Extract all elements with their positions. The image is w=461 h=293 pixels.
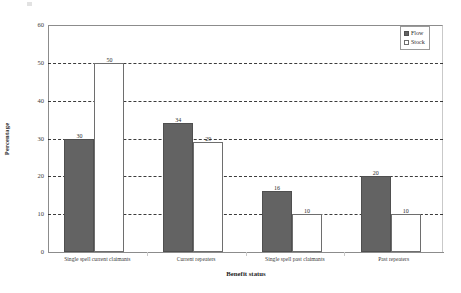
legend-item-flow: Flow [404,29,425,38]
decorative-corner-mark [27,2,32,6]
x-axis-separator [147,252,148,256]
x-tick-label: Current repeaters [177,257,216,263]
x-tick-label: Past repeaters [378,257,409,263]
bar-stock-0: 50 [94,63,124,252]
bar-value-label: 16 [274,185,280,191]
y-tick-label: 10 [38,211,45,218]
x-tick-label: Single spell past claimants [265,257,325,263]
legend-item-label: Stock [411,38,425,47]
bar-stock-3: 10 [391,214,421,252]
y-tick-label: 50 [38,60,45,67]
bar-value-label: 29 [205,136,211,142]
y-tick-label: 60 [38,22,45,29]
bar-stock-2: 10 [292,214,322,252]
y-tick-label: 20 [38,173,45,180]
bar-value-label: 50 [106,57,112,63]
bar-value-label: 10 [304,208,310,214]
bar-flow-3: 20 [361,176,391,252]
x-tick-label: Single spell current claimants [64,257,130,263]
y-tick-label: 40 [38,97,45,104]
y-tick-label: 30 [38,135,45,142]
bar-chart-figure: Percentage 0102030405060 305034291610201… [0,0,461,293]
x-axis-title: Benefit status [226,270,265,277]
chart-legend: FlowStock [400,26,430,50]
open-square-icon [404,40,409,45]
bar-value-label: 20 [373,170,379,176]
bar-value-label: 30 [76,133,82,139]
filled-square-icon [404,31,409,36]
plot-overlay: 0102030405060 3050342916102010 [48,25,443,252]
legend-item-stock: Stock [404,38,425,47]
x-axis-separator [246,252,247,256]
bar-flow-1: 34 [163,123,193,252]
bar-flow-2: 16 [262,191,292,252]
legend-item-label: Flow [411,29,423,38]
bar-flow-0: 30 [64,139,94,253]
bar-value-label: 34 [175,117,181,123]
bar-value-label: 10 [403,208,409,214]
y-axis-title: Percentage [3,123,10,156]
x-axis-separator [344,252,345,256]
bar-stock-1: 29 [193,142,223,252]
y-tick-label: 0 [41,249,44,256]
